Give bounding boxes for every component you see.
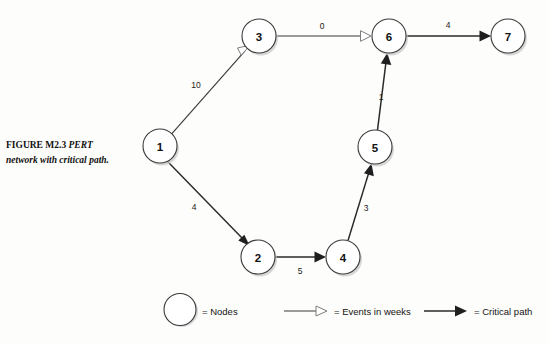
edge-6-to-7-arrowhead-solid xyxy=(480,31,492,42)
legend-item-nodes-label: = Nodes xyxy=(202,306,238,317)
legend-item-nodes: = Nodes xyxy=(162,292,238,330)
legend-solid-arrow-icon xyxy=(424,303,470,319)
edge-1-to-2-label: 4 xyxy=(192,202,197,212)
edge-1-to-3: 10 xyxy=(172,45,250,134)
edge-1-to-3-line xyxy=(172,51,245,134)
edge-5-to-6: 1 xyxy=(378,53,392,130)
legend-hollow-arrow-icon xyxy=(284,303,330,319)
node-4-label: 4 xyxy=(340,252,347,264)
legend-item-events-label: = Events in weeks xyxy=(334,306,411,317)
node-3-label: 3 xyxy=(256,31,262,43)
node-6-label: 6 xyxy=(386,31,392,43)
node-4[interactable]: 4 xyxy=(326,240,362,277)
node-1[interactable]: 1 xyxy=(143,129,179,166)
edge-3-to-6-arrowhead-hollow xyxy=(361,31,372,42)
edge-1-to-2: 4 xyxy=(168,162,250,247)
legend-item-critical-label: = Critical path xyxy=(474,306,532,317)
node-3[interactable]: 3 xyxy=(242,19,278,56)
edge-4-to-5: 3 xyxy=(348,164,374,241)
edge-2-to-4-arrowhead-solid xyxy=(315,252,327,263)
edge-5-to-6-label: 1 xyxy=(379,92,384,102)
edge-2-to-4-label: 5 xyxy=(298,266,303,276)
node-2[interactable]: 2 xyxy=(241,240,277,277)
edge-1-to-2-line xyxy=(168,162,243,240)
node-5[interactable]: 5 xyxy=(358,130,394,167)
edge-6-to-7-label: 4 xyxy=(446,20,451,30)
edge-3-to-6-label: 0 xyxy=(320,21,325,31)
node-6[interactable]: 6 xyxy=(372,19,408,56)
node-5-label: 5 xyxy=(372,142,379,154)
edge-3-to-6: 0 xyxy=(276,21,371,41)
legend: = Nodes = Events in weeks = Critical pat… xyxy=(162,292,542,332)
node-7-label: 7 xyxy=(505,31,511,43)
node-1-label: 1 xyxy=(157,141,164,153)
node-2-label: 2 xyxy=(255,252,261,264)
legend-item-critical: = Critical path xyxy=(424,292,532,330)
edge-1-to-3-label: 10 xyxy=(191,80,201,90)
edge-4-to-5-label: 3 xyxy=(364,203,369,213)
node-7[interactable]: 7 xyxy=(491,19,527,56)
edge-6-to-7: 4 xyxy=(406,20,491,41)
pert-network-figure: FIGURE M2.3 PERT network with critical p… xyxy=(0,0,548,345)
legend-item-events: = Events in weeks xyxy=(284,292,411,330)
legend-node-circle-icon xyxy=(162,292,198,330)
edge-2-to-4: 5 xyxy=(275,252,326,276)
